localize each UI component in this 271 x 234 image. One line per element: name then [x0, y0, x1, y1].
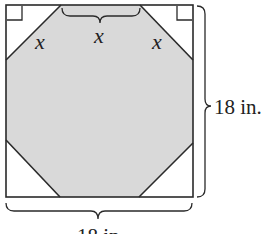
label-right-dimension: 18 in. — [214, 95, 262, 119]
right-angle-marker-top-left — [7, 6, 22, 20]
label-top-right-side: x — [151, 29, 162, 54]
bottom-dimension-brace — [6, 203, 192, 219]
label-top-side: x — [93, 23, 104, 48]
label-top-left-side: x — [34, 29, 45, 54]
right-dimension-brace — [197, 6, 211, 197]
right-angle-marker-top-right — [177, 6, 192, 20]
octagon-diagram: x x x 18 in. 18 in. — [0, 0, 271, 234]
label-bottom-dimension: 18 in. — [77, 224, 125, 234]
